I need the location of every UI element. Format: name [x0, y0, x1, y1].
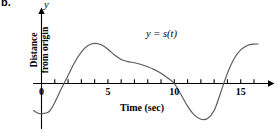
y-axis-arrowhead	[38, 8, 44, 15]
axes-lines	[33, 8, 275, 130]
x-axis-tick-label: 10	[169, 86, 179, 97]
plot-area	[0, 0, 277, 129]
distance-curve	[34, 43, 258, 119]
x-axis-tick-label: 15	[236, 86, 246, 97]
distance-vs-time-figure: b. y Distance from origin y = s(t) Time …	[0, 0, 277, 129]
x-axis-tick-label: 5	[105, 86, 110, 97]
x-axis-tick-label: 0	[39, 86, 44, 97]
x-axis-arrowhead	[268, 80, 275, 86]
